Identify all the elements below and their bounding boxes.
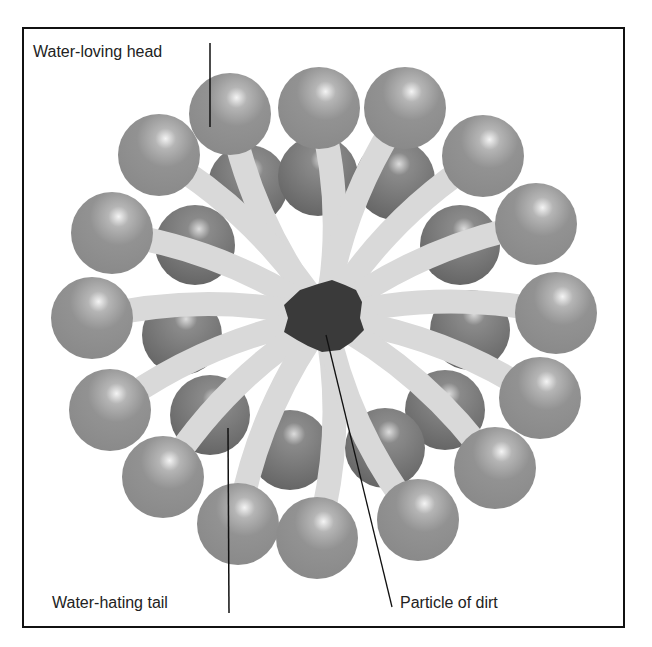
outer-head-sphere [51, 277, 133, 359]
tail-leader-line [228, 428, 229, 613]
outer-head-sphere [515, 272, 597, 354]
outer-head-sphere [442, 115, 524, 197]
outer-head-sphere [278, 67, 360, 149]
outer-head-sphere [69, 369, 151, 451]
outer-head-sphere [118, 114, 200, 196]
outer-head-sphere [495, 183, 577, 265]
label-water-hating-tail: Water-hating tail [52, 594, 168, 612]
outer-head-sphere [499, 357, 581, 439]
label-water-loving-head: Water-loving head [33, 43, 162, 61]
outer-head-sphere [197, 483, 279, 565]
outer-head-sphere [377, 479, 459, 561]
outer-head-sphere [122, 436, 204, 518]
label-particle-of-dirt: Particle of dirt [400, 594, 498, 612]
outer-head-sphere [454, 427, 536, 509]
micelle-diagram [0, 0, 652, 647]
outer-head-sphere [364, 67, 446, 149]
outer-head-sphere [276, 497, 358, 579]
outer-head-sphere [189, 73, 271, 155]
outer-head-sphere [71, 192, 153, 274]
